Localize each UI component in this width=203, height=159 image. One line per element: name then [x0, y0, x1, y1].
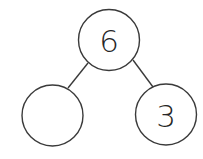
whole-label: 6 — [99, 23, 119, 59]
left-part-node[interactable] — [22, 85, 83, 146]
left-part-circle[interactable] — [22, 85, 83, 146]
right-part-node: 3 — [136, 84, 197, 145]
edge-whole-to-left-part — [68, 63, 88, 88]
number-bond-diagram: 6 3 — [0, 0, 203, 159]
whole-node: 6 — [79, 10, 140, 71]
edge-whole-to-right-part — [133, 60, 153, 87]
right-part-label: 3 — [156, 98, 176, 134]
